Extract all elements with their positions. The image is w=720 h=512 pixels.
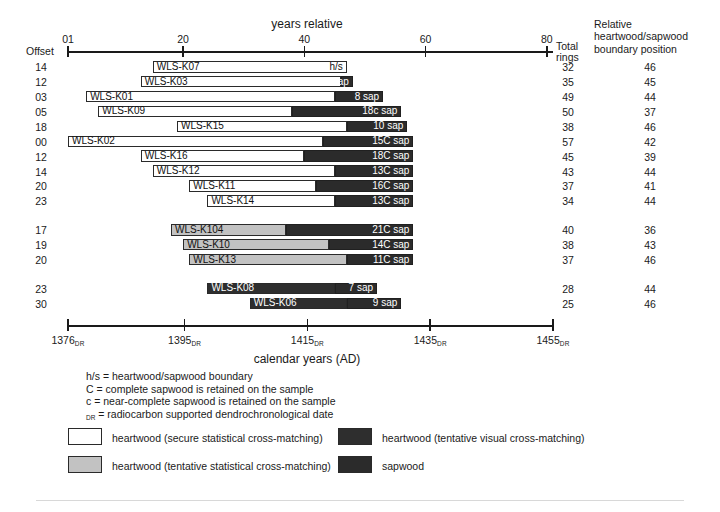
offset-value: 23 (35, 195, 47, 207)
offset-value: 20 (35, 254, 47, 266)
sapwood-annotation-label: 11C sap (373, 255, 410, 265)
note-text: c = near-complete sapwood is retained on… (86, 395, 336, 407)
boundary-position-value: 37 (644, 106, 656, 118)
bottom-tick-1435 (429, 319, 431, 331)
chart-note: DR = radiocarbon supported dendrochronol… (86, 408, 333, 420)
calendar-year-suffix: DR (314, 340, 324, 347)
sapwood-annotation-label: 18c sap (362, 106, 397, 116)
offset-value: 18 (35, 121, 47, 133)
sample-name-label: WLS-K16 (145, 151, 188, 161)
bottom-tick-label-1395: 1395DR (168, 334, 201, 346)
offset-value: 14 (35, 166, 47, 178)
boundary-position-value: 44 (644, 283, 656, 295)
top-tick-label-80: 80 (541, 33, 553, 45)
legend-swatch-gray (68, 456, 102, 473)
sample-bar[interactable]: WLS-K069 sap (250, 298, 402, 310)
calendar-year-text: 1415 (291, 334, 314, 346)
sapwood-annotation-label: 13C sap (372, 166, 409, 176)
sample-name-label: WLS-K104 (175, 225, 223, 235)
sample-bar[interactable]: WLS-K018 sap (86, 91, 383, 103)
bottom-tick-label-1415: 1415DR (291, 334, 324, 346)
offset-value: 03 (35, 91, 47, 103)
total-rings-value: 37 (562, 254, 574, 266)
top-tick-label-40: 40 (298, 33, 310, 45)
bottom-tick-1395 (184, 319, 186, 331)
note-text: C = complete sapwood is retained on the … (86, 383, 313, 395)
boundary-position-value: 42 (644, 136, 656, 148)
bottom-tick-label-1435: 1435DR (414, 334, 447, 346)
boundary-position-value: 44 (644, 166, 656, 178)
legend-swatch-white (68, 428, 102, 445)
total-rings-value: 35 (562, 76, 574, 88)
top-tick-label-20: 20 (177, 33, 189, 45)
calendar-year-suffix: DR (560, 340, 570, 347)
chart-note: c = near-complete sapwood is retained on… (86, 395, 336, 407)
sample-bar[interactable]: WLS-K1311C sap (189, 254, 413, 266)
sapwood-annotation-label: 15C sap (372, 136, 409, 146)
sample-bar[interactable]: WLS-K1618C sap (141, 150, 414, 162)
bottom-axis-title: calendar years (AD) (254, 352, 361, 366)
offset-column-header: Offset (26, 45, 54, 57)
sample-name-label: WLS-K12 (157, 166, 200, 176)
sample-name-label: WLS-K09 (102, 106, 145, 116)
sample-bar[interactable]: WLS-K0215C sap (68, 136, 413, 148)
sapwood-annotation-label: 10 sap (373, 121, 403, 131)
total-rings-value: 50 (562, 106, 574, 118)
bottom-tick-1415 (307, 319, 309, 331)
total-rings-value: 40 (562, 224, 574, 236)
sapwood-annotation-label: h/s (329, 62, 342, 72)
sapwood-annotation-label: 21C sap (372, 225, 409, 235)
calendar-year-text: 1395 (168, 334, 191, 346)
sapwood-annotation-label: 16C sap (372, 181, 409, 191)
total-rings-value: 32 (562, 61, 574, 73)
total-rings-value: 28 (562, 283, 574, 295)
total-rings-value: 45 (562, 151, 574, 163)
note-text: = radiocarbon supported dendrochronologi… (95, 408, 333, 420)
legend-swatch-dark (338, 428, 372, 445)
footer-divider (36, 500, 684, 501)
sample-bar[interactable]: WLS-K0918c sap (98, 106, 401, 118)
calendar-year-text: 1455 (536, 334, 559, 346)
sapwood-annotation-label: 14C sap (372, 240, 409, 250)
total-rings-value: 34 (562, 195, 574, 207)
bottom-tick-label-1376: 1376DR (51, 334, 84, 346)
sample-name-label: WLS-K02 (72, 136, 115, 146)
top-tick-label-60: 60 (420, 33, 432, 45)
boundary-position-value: 44 (644, 195, 656, 207)
sample-name-label: WLS-K10 (187, 240, 230, 250)
offset-value: 19 (35, 239, 47, 251)
sample-bar[interactable]: WLS-K07h/s (153, 61, 347, 73)
sample-bar[interactable]: WLS-K1510 sap (177, 121, 407, 133)
calendar-year-suffix: DR (191, 340, 201, 347)
offset-value: 30 (35, 298, 47, 310)
offset-value: 23 (35, 283, 47, 295)
sample-bar[interactable]: WLS-K1014C sap (183, 239, 413, 251)
boundary-position-value: 41 (644, 180, 656, 192)
sample-name-label: WLS-K03 (145, 77, 188, 87)
top-tick-20 (182, 46, 184, 57)
boundary-position-value: 46 (644, 121, 656, 133)
sample-bar[interactable]: WLS-K032 sap (141, 76, 353, 88)
boundary-position-value: 39 (644, 151, 656, 163)
sapwood-annotation-label: 8 sap (355, 92, 379, 102)
sample-bar[interactable]: WLS-K10421C sap (171, 224, 413, 236)
top-tick-label-01: 01 (62, 33, 74, 45)
boundary-position-value: 43 (644, 239, 656, 251)
sample-bar[interactable]: WLS-K1116C sap (189, 180, 413, 192)
bottom-tick-1376 (67, 319, 69, 331)
sapwood-annotation-label: 2 sap (324, 77, 348, 87)
sample-name-label: WLS-K15 (181, 121, 224, 131)
sample-name-label: WLS-K11 (193, 181, 235, 191)
top-axis-title: years relative (271, 17, 342, 31)
bottom-tick-label-1455: 1455DR (536, 334, 569, 346)
total-rings-value: 57 (562, 136, 574, 148)
boundary-header-line2: heartwood/sapwood (594, 30, 688, 42)
sample-bar[interactable]: WLS-K087 sap (207, 283, 377, 295)
sample-bar[interactable]: WLS-K1413C sap (207, 195, 413, 207)
legend-label: heartwood (tentative statistical cross-m… (112, 460, 331, 472)
boundary-position-value: 44 (644, 91, 656, 103)
sample-bar[interactable]: WLS-K1213C sap (153, 165, 414, 177)
offset-value: 17 (35, 224, 47, 236)
top-tick-60 (425, 46, 427, 57)
boundary-header-line3: boundary position (594, 43, 677, 55)
